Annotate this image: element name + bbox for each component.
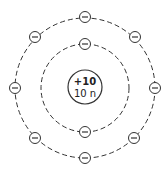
- electron-icon: [10, 83, 21, 94]
- nucleus: +10 10 n: [68, 70, 102, 104]
- electron-icon: [129, 133, 140, 144]
- nucleus-charge: +10: [74, 76, 96, 87]
- electron-icon: [30, 133, 41, 144]
- electron-icon: [80, 127, 91, 138]
- electron-icon: [130, 32, 141, 43]
- electron-icon: [80, 12, 91, 23]
- electron-icon: [80, 39, 91, 50]
- electron-icon: [30, 32, 41, 43]
- nucleus-neutrons: 10 n: [74, 88, 96, 99]
- atom-diagram: +10 10 n: [0, 0, 168, 173]
- electron-icon: [80, 153, 91, 164]
- electron-icon: [150, 83, 161, 94]
